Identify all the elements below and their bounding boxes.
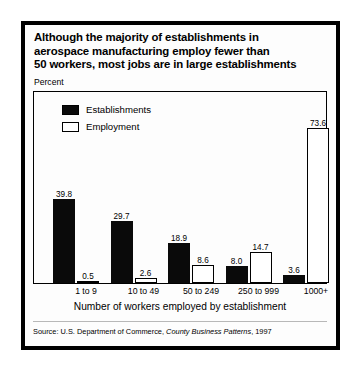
bar-value-label: 18.9 — [171, 234, 187, 243]
bar-establishments: 3.6 — [283, 275, 305, 283]
plot-area: Establishments Employment 39.80.529.72.6… — [34, 92, 326, 283]
plot-frame: Establishments Employment 39.80.529.72.6… — [33, 91, 327, 284]
x-axis-tick-label: 1000+ — [304, 286, 328, 296]
figure-panel: Although the majority of establishments … — [21, 21, 340, 350]
bar-employment: 0.5 — [77, 281, 99, 283]
bar-value-label: 8.0 — [231, 257, 242, 266]
bar-employment: 2.6 — [135, 278, 157, 283]
x-axis-tick-label: 1 to 9 — [75, 286, 97, 296]
chart-title-line-3: 50 workers, most jobs are in large estab… — [34, 58, 332, 72]
bar-value-label: 8.6 — [197, 256, 208, 265]
source-note: Source: U.S. Department of Commerce, Cou… — [33, 327, 272, 336]
bar-value-label: 14.7 — [253, 243, 269, 252]
bar-value-label: 0.5 — [82, 272, 93, 281]
bar-groups: 39.80.529.72.618.98.68.014.73.673.6 — [34, 92, 326, 283]
x-axis-tick-label: 50 to 249 — [183, 286, 219, 296]
bar-value-label: 2.6 — [140, 269, 151, 278]
bar-value-label: 3.6 — [288, 266, 299, 275]
y-axis-unit-label: Percent — [34, 77, 64, 87]
bar-establishments: 18.9 — [168, 243, 190, 283]
bar-employment: 14.7 — [250, 252, 272, 283]
bar-establishments: 8.0 — [226, 266, 248, 283]
x-axis-title: Number of workers employed by establishm… — [33, 301, 327, 312]
bar-group: 29.72.6 — [111, 92, 157, 283]
chart-title: Although the majority of establishments … — [34, 31, 332, 72]
bar-group: 18.98.6 — [168, 92, 214, 283]
bar-value-label: 39.8 — [56, 190, 72, 199]
source-suffix: , 1997 — [251, 327, 272, 336]
bar-group: 8.014.7 — [226, 92, 272, 283]
x-axis-tick-label: 10 to 49 — [128, 286, 159, 296]
figure-inner: Although the majority of establishments … — [25, 25, 336, 346]
bar-establishments: 29.7 — [111, 221, 133, 283]
bar-group: 3.673.6 — [283, 92, 329, 283]
bar-employment: 8.6 — [192, 265, 214, 283]
source-prefix: Source: U.S. Department of Commerce, — [33, 327, 166, 336]
x-axis-tick-label: 250 to 999 — [238, 286, 279, 296]
bar-employment: 73.6 — [307, 128, 329, 283]
chart-title-line-1: Although the majority of establishments … — [34, 31, 332, 45]
source-divider — [33, 321, 327, 322]
x-axis-tick-labels: 1 to 910 to 4950 to 249250 to 9991000+ — [33, 286, 327, 300]
bar-establishments: 39.8 — [53, 199, 75, 283]
chart-title-line-2: aerospace manufacturing employ fewer tha… — [34, 45, 332, 59]
bar-group: 39.80.5 — [53, 92, 99, 283]
bar-value-label: 73.6 — [310, 119, 326, 128]
bar-value-label: 29.7 — [114, 212, 130, 221]
source-publication: County Business Patterns — [166, 327, 251, 336]
